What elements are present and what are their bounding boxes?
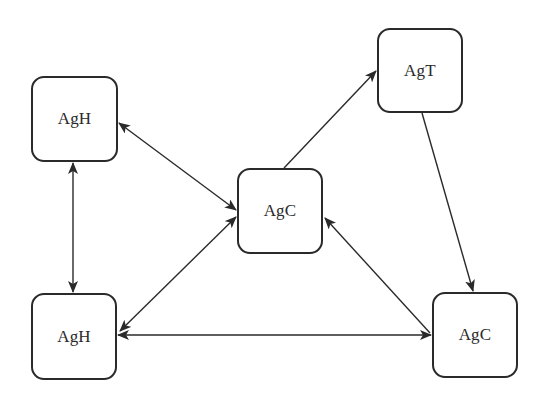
edge-agh-top-to-agc-center-arrow-icon: [119, 123, 236, 210]
edge-agh-bottom-to-agc-center-arrow-icon: [120, 217, 236, 331]
node-label: AgT: [404, 61, 436, 81]
edge-agt-to-agc-right-arrow-icon: [422, 113, 473, 291]
node-agc-right: AgC: [432, 292, 518, 378]
node-agc-center: AgC: [237, 168, 323, 254]
node-agh-bottom: AgH: [31, 293, 117, 380]
node-agh-top: AgH: [31, 76, 118, 162]
edge-agc-right-to-agc-center-arrow-icon: [325, 218, 430, 333]
node-agt: AgT: [377, 28, 463, 113]
edge-agc-center-to-agt-arrow-icon: [284, 71, 376, 168]
node-label: AgC: [459, 325, 492, 345]
node-label: AgH: [58, 109, 92, 129]
agent-diagram: AgHAgTAgCAgHAgC: [0, 0, 541, 401]
node-label: AgH: [57, 327, 91, 347]
node-label: AgC: [264, 201, 297, 221]
